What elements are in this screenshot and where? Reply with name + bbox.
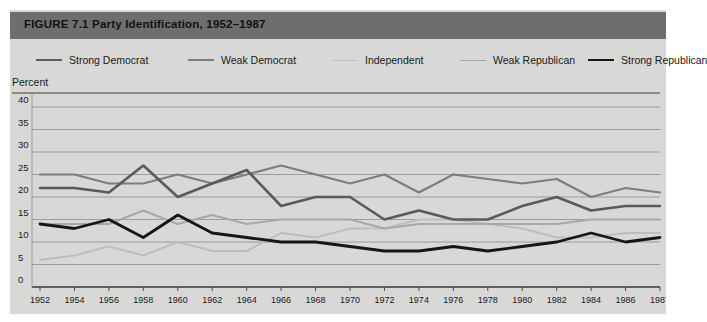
x-tick-label: 1976 [443,295,463,305]
y-tick-label: 25 [18,162,29,173]
x-tick-label: 1968 [306,295,326,305]
x-tick-label: 1978 [478,295,498,305]
y-tick-label: 20 [18,184,29,195]
y-tick-label: 5 [18,252,23,263]
y-tick-label: 35 [18,117,29,128]
x-tick-label: 1954 [64,295,84,305]
x-tick-label: 1958 [133,295,153,305]
y-tick-label: 0 [18,274,23,285]
x-tick-label: 1984 [581,295,601,305]
y-tick-label: 30 [18,139,29,150]
y-tick-label: 40 [18,94,29,105]
x-tick-label: 1956 [99,295,119,305]
series-line-weak-democrat [40,166,660,198]
plot-area: 0510152025303540195219541956195819601962… [10,10,666,314]
x-tick-label: 1970 [340,295,360,305]
x-tick-label: 1960 [168,295,188,305]
figure-container: FIGURE 7.1 Party Identification, 1952–19… [10,10,666,314]
x-tick-label: 1952 [30,295,50,305]
x-tick-label: 1962 [202,295,222,305]
series-line-strong-democrat [40,166,660,220]
y-tick-label: 15 [18,207,29,218]
x-tick-label: 1966 [271,295,291,305]
line-chart: 0510152025303540195219541956195819601962… [10,10,666,314]
x-tick-label: 1987 [650,295,666,305]
x-tick-label: 1982 [547,295,567,305]
x-tick-label: 1974 [409,295,429,305]
x-tick-label: 1986 [616,295,636,305]
x-tick-label: 1980 [512,295,532,305]
x-tick-label: 1964 [237,295,257,305]
x-tick-label: 1972 [374,295,394,305]
y-tick-label: 10 [18,229,29,240]
